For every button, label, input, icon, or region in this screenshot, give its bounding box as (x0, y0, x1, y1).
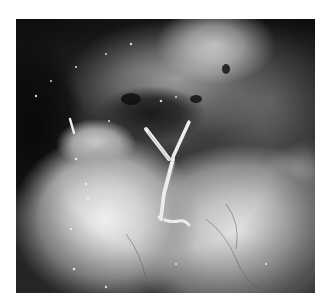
suture-strands (16, 19, 315, 293)
dark-spots (121, 64, 230, 105)
surgical-photograph (16, 19, 315, 293)
suture-y (70, 119, 189, 225)
vessels (126, 109, 273, 289)
